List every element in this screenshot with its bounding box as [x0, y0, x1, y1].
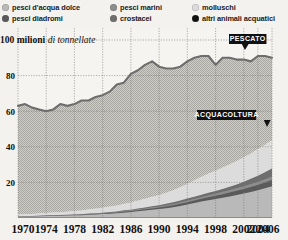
x-axis: 1970197419781982198619901994199820022004…	[0, 218, 288, 240]
legend-swatch-icon	[110, 15, 117, 22]
legend-label: crostacei	[120, 14, 152, 23]
legend-label: pesci marini	[120, 3, 162, 12]
x-tick-label: 1994	[176, 223, 199, 235]
x-tick-label: 1978	[63, 223, 86, 235]
x-tick-label: 1982	[91, 223, 114, 235]
y-tick-label: 60	[6, 107, 16, 117]
x-tick-label: 1998	[204, 223, 227, 235]
legend-item-altri-animali: altri animali acquatici	[192, 14, 275, 23]
y-tick-label: 40	[6, 142, 16, 152]
legend-label: altri animali acquatici	[202, 14, 275, 23]
legend-item-crostacei: crostacei	[110, 14, 152, 23]
x-tick-label: 1974	[35, 223, 58, 235]
chart-title: 100 milionidi tonnellate	[0, 35, 95, 45]
legend-item-pesci-diadromi: pesci diadromi	[2, 14, 63, 23]
legend-swatch-icon	[192, 4, 199, 11]
legend-label: pesci diadromi	[12, 14, 63, 23]
chart-legend: pesci d'acqua dolce pesci diadromi pesci…	[0, 0, 288, 28]
x-tick-label: 1990	[148, 223, 171, 235]
legend-label: pesci d'acqua dolce	[12, 3, 80, 12]
y-tick-label: 80	[6, 71, 16, 81]
x-tick-label: 1986	[119, 223, 142, 235]
legend-swatch-icon	[2, 15, 9, 22]
x-tick-label: 2006	[257, 223, 280, 235]
legend-swatch-icon	[110, 4, 117, 11]
legend-item-molluschi: molluschi	[192, 3, 236, 12]
legend-label: molluschi	[202, 3, 236, 12]
legend-swatch-icon	[192, 15, 199, 22]
callout-label: PESCATO	[230, 35, 266, 42]
y-tick-label: 20	[6, 178, 16, 188]
fishery-production-chart: pesci d'acqua dolce pesci diadromi pesci…	[0, 0, 288, 240]
legend-swatch-icon	[2, 4, 9, 11]
legend-item-pesci-marini: pesci marini	[110, 3, 162, 12]
plot-area: 20406080100 milionidi tonnellatePESCATOA…	[0, 28, 288, 218]
legend-item-pesci-acqua-dolce: pesci d'acqua dolce	[2, 3, 80, 12]
callout-label: ACQUACOLTURA	[195, 111, 259, 119]
x-tick-label: 1970	[12, 223, 35, 235]
